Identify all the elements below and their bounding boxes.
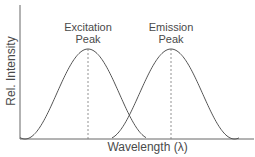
emission-label-line1: Emission	[141, 21, 201, 33]
excitation-curve	[20, 49, 146, 139]
excitation-label-line1: Excitation	[58, 21, 118, 33]
excitation-label-line2: Peak	[58, 33, 118, 45]
emission-peak-label: Emission Peak	[141, 21, 201, 45]
x-axis-label: Wavelength (λ)	[60, 141, 235, 153]
emission-label-line2: Peak	[141, 33, 201, 45]
emission-curve	[112, 49, 239, 139]
spectrum-plot	[0, 0, 255, 157]
excitation-peak-label: Excitation Peak	[58, 21, 118, 45]
y-axis-label: Rel. Intensity	[5, 34, 17, 108]
